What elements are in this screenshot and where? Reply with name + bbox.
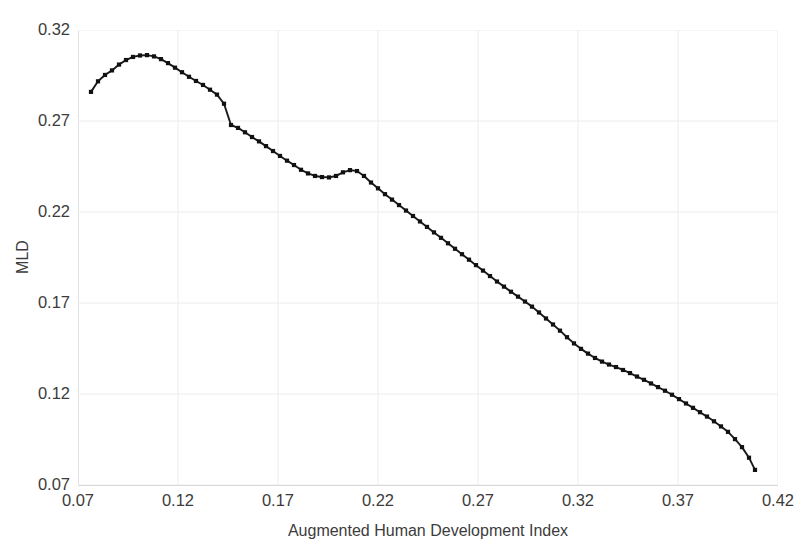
x-axis-tick-label: 0.37 — [643, 492, 713, 509]
chart-figure: 0.070.120.170.220.270.32 0.070.120.170.2… — [0, 0, 806, 558]
x-axis-line — [78, 485, 778, 486]
x-axis-tick-label: 0.22 — [343, 492, 413, 509]
x-axis-tick-label: 0.27 — [443, 492, 513, 509]
x-axis-tick-label: 0.42 — [743, 492, 806, 509]
x-axis-tick-label: 0.07 — [43, 492, 113, 509]
plot-area — [78, 30, 778, 485]
y-axis-tick-label: 0.27 — [8, 112, 70, 129]
y-axis-title: MLD — [14, 217, 32, 297]
x-axis-title: Augmented Human Development Index — [78, 522, 778, 540]
x-axis-tick-label: 0.32 — [543, 492, 613, 509]
y-axis-tick-label: 0.07 — [8, 476, 70, 493]
data-series-line — [78, 30, 778, 485]
x-axis-tick-label: 0.12 — [143, 492, 213, 509]
y-axis-tick-label: 0.12 — [8, 385, 70, 402]
x-axis-tick-label: 0.17 — [243, 492, 313, 509]
y-axis-tick-label: 0.32 — [8, 21, 70, 38]
